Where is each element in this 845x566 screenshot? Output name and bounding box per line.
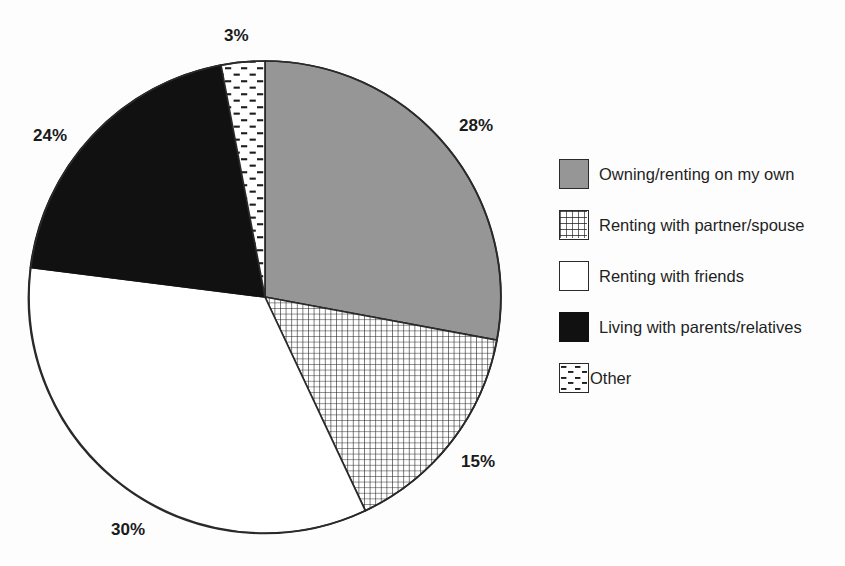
legend-label-renting-with-friends: Renting with friends xyxy=(599,268,744,285)
legend-item-renting-with-friends: Renting with friends xyxy=(559,260,839,292)
crosshatch-pattern-icon xyxy=(560,211,587,238)
black-swatch-icon xyxy=(559,312,589,342)
legend-label-renting-with-partner-spouse: Renting with partner/spouse xyxy=(599,217,804,234)
dash-pattern-icon xyxy=(560,364,587,391)
gray-swatch-icon xyxy=(559,159,589,189)
pie-label-living-with-parents-relatives: 24% xyxy=(33,126,67,146)
legend-item-living-with-parents-relatives: Living with parents/relatives xyxy=(559,311,839,343)
dashed-swatch-icon xyxy=(559,363,589,393)
legend-label-owning-renting-on-my-own: Owning/renting on my own xyxy=(599,166,794,183)
pie-label-renting-with-partner-spouse: 15% xyxy=(461,452,495,472)
chart-legend: Owning/renting on my own Renting with pa… xyxy=(559,158,839,413)
legend-item-owning-renting-on-my-own: Owning/renting on my own xyxy=(559,158,839,190)
pie-chart-figure: 3% 28% 15% 30% 24% Owning/renting on my … xyxy=(0,0,845,566)
legend-item-other: Other xyxy=(559,362,839,394)
pie-label-other: 3% xyxy=(224,26,249,46)
legend-item-renting-with-partner-spouse: Renting with partner/spouse xyxy=(559,209,839,241)
pie-label-renting-with-friends: 30% xyxy=(111,520,145,540)
pie-label-owning-renting-on-my-own: 28% xyxy=(459,116,493,136)
pie-slice-owning-renting-on-my-own xyxy=(265,61,501,340)
legend-label-other: Other xyxy=(590,370,631,387)
legend-label-living-with-parents-relatives: Living with parents/relatives xyxy=(599,319,802,336)
crosshatch-swatch-icon xyxy=(559,210,589,240)
white-swatch-icon xyxy=(559,261,589,291)
